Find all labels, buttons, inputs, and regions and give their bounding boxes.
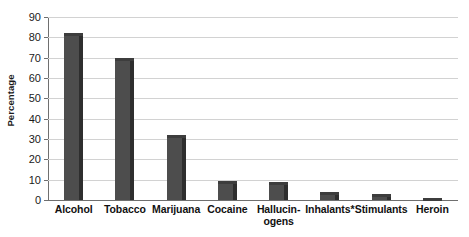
y-axis-tick	[44, 119, 48, 120]
bar-top-face	[269, 182, 288, 185]
bar	[64, 33, 83, 200]
x-axis-tick-label-line1: Alcohol	[55, 203, 93, 215]
x-axis-tick-label-line1: Hallucin-	[257, 203, 300, 215]
bar	[269, 182, 288, 200]
bar-side-shadow	[335, 195, 339, 200]
bar	[423, 198, 442, 200]
y-axis-tick-label: 20	[29, 153, 41, 165]
bar-side-shadow	[387, 197, 391, 200]
y-axis-tick-label: 30	[29, 133, 41, 145]
bar-side-shadow	[182, 138, 186, 200]
y-axis-title: Percentage	[0, 0, 20, 200]
y-axis-tick-label: 50	[29, 92, 41, 104]
bar-top-face	[64, 33, 83, 36]
y-axis-tick	[44, 180, 48, 181]
y-axis-tick-label: 70	[29, 52, 41, 64]
x-axis-tick-label-line1: Heroin	[416, 203, 449, 215]
bar-side-shadow	[284, 185, 288, 200]
x-axis-tick-label-line1: Tobacco	[104, 203, 146, 215]
bar-side-shadow	[233, 184, 237, 200]
bar-top-face	[115, 58, 134, 61]
x-axis-tick-label: Heroin	[402, 203, 462, 215]
bar	[372, 194, 391, 200]
bar	[218, 181, 237, 200]
bar-top-face	[372, 194, 391, 197]
bar-side-shadow	[130, 61, 134, 200]
bar-top-face	[167, 135, 186, 138]
gridline	[48, 37, 458, 38]
bar-top-face	[320, 192, 339, 195]
y-axis-tick	[44, 200, 48, 201]
y-axis-tick-label: 40	[29, 113, 41, 125]
gridline	[48, 78, 458, 79]
y-axis-tick	[44, 58, 48, 59]
bar-face	[115, 58, 130, 200]
y-axis-tick-label: 60	[29, 72, 41, 84]
gridline	[48, 180, 458, 181]
x-axis-tick-label-line1: Marijuana	[152, 203, 200, 215]
x-axis-tick-label-line1: Inhalants*	[305, 203, 354, 215]
y-axis-tick	[44, 139, 48, 140]
y-axis-tick-label: 90	[29, 11, 41, 23]
gridline	[48, 17, 458, 18]
y-axis-line	[48, 17, 49, 201]
bar-chart: Percentage 9080706050403020100 AlcoholTo…	[0, 0, 469, 237]
gridline	[48, 58, 458, 59]
y-axis-tick	[44, 37, 48, 38]
bar-top-face	[423, 198, 442, 201]
x-axis-tick-label-line1: Stimulants	[355, 203, 408, 215]
y-axis-title-text: Percentage	[5, 74, 16, 126]
y-axis-tick	[44, 159, 48, 160]
plot-area: 9080706050403020100	[48, 17, 458, 200]
x-axis-tick-label-line2: ogens	[249, 215, 309, 227]
x-axis-tick-label-line1: Cocaine	[207, 203, 247, 215]
bar-top-face	[218, 181, 237, 184]
bar-face	[167, 135, 182, 200]
bar	[167, 135, 186, 200]
y-axis-tick	[44, 78, 48, 79]
y-axis-tick-label: 10	[29, 174, 41, 186]
bar-side-shadow	[79, 36, 83, 200]
y-axis-tick	[44, 98, 48, 99]
y-axis-tick-label: 80	[29, 31, 41, 43]
gridline	[48, 98, 458, 99]
bar	[320, 192, 339, 200]
bar	[115, 58, 134, 200]
gridline	[48, 139, 458, 140]
y-axis-tick	[44, 17, 48, 18]
gridline	[48, 159, 458, 160]
x-axis-line	[48, 200, 458, 201]
gridline	[48, 119, 458, 120]
y-axis-tick-label: 0	[35, 194, 41, 206]
bar-face	[64, 33, 79, 200]
